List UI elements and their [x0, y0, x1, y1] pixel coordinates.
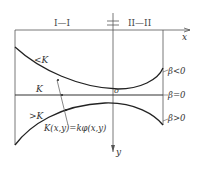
- region-label-middle: K: [35, 84, 44, 94]
- beta-negative-label: β<0: [167, 66, 186, 76]
- section-label-left: I—I: [54, 18, 71, 28]
- equation-leader-line: [57, 80, 68, 125]
- origin-label: o: [114, 86, 119, 95]
- y-axis-arrow-icon: [111, 145, 115, 152]
- region-label-lower: >K: [29, 111, 45, 121]
- section-label-right: II—II: [128, 18, 152, 28]
- region-label-upper: <K: [34, 55, 50, 65]
- flow-diagram: I—I II—II x y o <K K >K K(x,y)=kφ(x,y) β…: [0, 0, 201, 170]
- equation-label: K(x,y)=kφ(x,y): [43, 123, 106, 133]
- beta-negative-curve: [15, 47, 163, 89]
- beta-positive-label: β>0: [167, 113, 186, 123]
- y-axis-label: y: [115, 147, 122, 157]
- beta-zero-label: β=0: [167, 90, 186, 100]
- x-axis-label: x: [182, 32, 187, 42]
